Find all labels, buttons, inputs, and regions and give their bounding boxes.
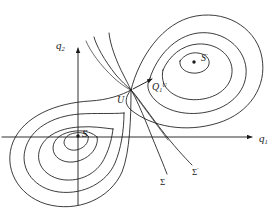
q1u-vector-label: Q1U (152, 82, 167, 93)
orbit-left-2 (39, 127, 113, 180)
center-S-prime-label: S′ (201, 53, 207, 63)
saddle-tangent-line (131, 90, 168, 140)
center-S-label: S (82, 128, 88, 139)
orbit-left-1 (53, 131, 97, 162)
phase-portrait-figure: q2 q1 S S′ U Q1U Σ Σ′ (0, 0, 273, 222)
q1u-direction-arrow (133, 79, 152, 89)
orbit-left-4 (10, 90, 131, 207)
separatrix-sigma-prime-label: Σ′ (192, 168, 198, 177)
orbit-right-2 (162, 44, 232, 100)
y-axis-label: q2 (56, 40, 65, 52)
x-axis-label: q1 (259, 133, 268, 145)
center-S-dot (76, 134, 79, 137)
saddle-U-label: U (117, 95, 124, 105)
center-Sprime-dot (192, 60, 195, 63)
phase-portrait-svg (0, 0, 273, 222)
separatrix-sigma-label: Σ (160, 178, 165, 187)
